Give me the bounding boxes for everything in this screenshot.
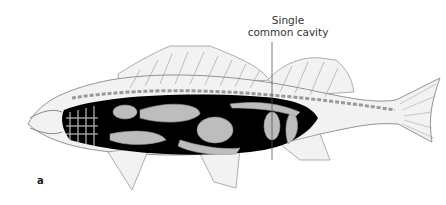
annotation-single-common-cavity: Single common cavity <box>238 14 338 38</box>
pelvic-fin <box>108 146 150 190</box>
annotation-line-2: common cavity <box>238 26 338 38</box>
fish-anatomy-diagram <box>0 0 446 205</box>
panel-label: a <box>37 175 44 187</box>
annotation-line-1: Single <box>238 14 338 26</box>
